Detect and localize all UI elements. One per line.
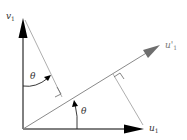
u1-projection-line (113, 74, 143, 125)
right-angle-mark-v1 (55, 87, 61, 97)
theta-lower-label: θ (81, 107, 86, 116)
diagram-canvas: v1 u'1 u1 θ θ (0, 0, 187, 140)
diagram-graphics (0, 0, 187, 140)
u1-label: u1 (149, 124, 159, 134)
u1-prime-label-sub: 1 (173, 44, 177, 51)
theta-arc-upper (23, 75, 51, 86)
theta-upper-label: θ (30, 72, 35, 81)
u1-prime-vector-arrow (23, 45, 160, 129)
v1-label: v1 (6, 12, 15, 22)
theta-arc-lower (72, 100, 78, 129)
u1-label-sub: 1 (155, 127, 159, 134)
u1-prime-label: u'1 (165, 41, 177, 51)
v1-projection-line (25, 20, 62, 97)
v1-label-sub: 1 (11, 15, 15, 22)
u1-axis-arrow (23, 125, 144, 134)
v1-axis-arrow (19, 18, 28, 129)
